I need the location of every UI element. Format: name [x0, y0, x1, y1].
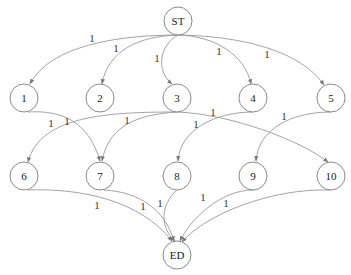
node-1: 1	[10, 84, 38, 112]
node-label: 10	[326, 170, 338, 182]
edge-arrow	[162, 35, 178, 84]
node-3: 3	[163, 84, 191, 112]
edge-weight-label: 1	[48, 117, 54, 129]
edge-arrow	[178, 112, 253, 161]
node-label: 5	[328, 92, 334, 104]
edge-weight-label: 1	[200, 191, 206, 203]
edge-arrow	[178, 35, 251, 84]
node-label: 1	[21, 92, 27, 104]
edge-7-to-ed	[104, 190, 174, 241]
edge-weight-label: 1	[223, 197, 229, 209]
edge-st-to-3	[162, 35, 178, 84]
edge-weight-label: 1	[124, 114, 130, 126]
edge-3-to-10	[177, 112, 328, 162]
edge-weight-label: 1	[113, 42, 119, 54]
node-label: 8	[174, 170, 180, 182]
node-label: 7	[97, 170, 103, 182]
edge-weight-label: 1	[157, 197, 163, 209]
node-2: 2	[86, 84, 114, 112]
node-9: 9	[239, 162, 267, 190]
edge-arrow	[104, 190, 174, 241]
node-ed: ED	[163, 241, 191, 269]
node-label: ST	[172, 15, 185, 27]
edge-weight-label: 1	[216, 45, 222, 57]
node-label: 9	[250, 170, 256, 182]
edge-layer	[28, 35, 331, 242]
node-4: 4	[239, 84, 267, 112]
edge-5-to-9	[256, 112, 331, 161]
edge-weight-label: 1	[154, 52, 160, 64]
edge-arrow	[28, 190, 172, 241]
node-8: 8	[163, 162, 191, 190]
edge-arrow	[256, 112, 331, 161]
node-5: 5	[317, 84, 345, 112]
edge-weight-label: 1	[64, 115, 70, 127]
edge-3-to-7	[102, 112, 177, 161]
graph-canvas: 1111111111111111 ST12345678910ED	[0, 0, 351, 275]
edge-6-to-ed	[28, 190, 172, 241]
node-label: 2	[97, 92, 103, 104]
node-st: ST	[164, 7, 192, 35]
edge-weight-label: 1	[281, 110, 287, 122]
node-10: 10	[317, 162, 345, 190]
edge-weight-label: 1	[264, 48, 270, 60]
node-label: 3	[174, 92, 180, 104]
node-7: 7	[86, 162, 114, 190]
edge-weight-label: 1	[140, 200, 146, 212]
edge-weight-label: 1	[193, 118, 199, 130]
node-layer: ST12345678910ED	[10, 7, 345, 269]
node-6: 6	[10, 162, 38, 190]
edge-st-to-5	[178, 35, 324, 85]
edge-arrow	[102, 112, 177, 161]
node-label: 4	[250, 92, 256, 104]
node-label: ED	[170, 249, 185, 261]
edge-weight-label: 1	[89, 32, 95, 44]
edge-weight-label: 1	[94, 199, 100, 211]
edge-weight-label: 1	[210, 106, 216, 118]
node-label: 6	[21, 170, 27, 182]
edge-4-to-8	[178, 112, 253, 161]
edge-arrow	[177, 112, 328, 162]
edge-st-to-4	[178, 35, 251, 84]
edge-arrow	[178, 35, 324, 85]
